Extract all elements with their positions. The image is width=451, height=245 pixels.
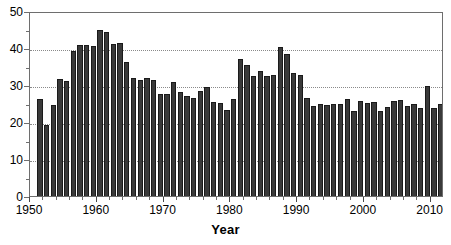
x-tick-mark bbox=[229, 197, 230, 202]
bar bbox=[351, 111, 356, 196]
bar bbox=[378, 111, 383, 196]
bar bbox=[278, 47, 283, 196]
bar bbox=[191, 98, 196, 196]
x-tick-minor bbox=[136, 197, 137, 200]
bar bbox=[178, 92, 183, 196]
x-tick-minor bbox=[69, 197, 70, 200]
bar bbox=[258, 71, 263, 196]
y-tick-label: 20 bbox=[10, 117, 23, 129]
bar-chart: 01020304050 1950196019701980199020002010… bbox=[0, 0, 451, 245]
y-axis: 01020304050 bbox=[0, 0, 29, 210]
bar bbox=[144, 78, 149, 196]
x-tick-minor bbox=[323, 197, 324, 200]
y-tick-label: 50 bbox=[10, 6, 23, 18]
bar bbox=[211, 102, 216, 196]
bar bbox=[371, 102, 376, 196]
y-tick-label: 40 bbox=[10, 43, 23, 55]
bar bbox=[304, 98, 309, 196]
bar bbox=[204, 87, 209, 196]
bar bbox=[264, 76, 269, 196]
x-tick-label: 2000 bbox=[350, 204, 377, 216]
bar bbox=[158, 94, 163, 196]
bar bbox=[324, 105, 329, 196]
x-tick-minor bbox=[390, 197, 391, 200]
bar bbox=[385, 107, 390, 196]
x-tick-mark bbox=[96, 197, 97, 202]
x-tick-minor bbox=[176, 197, 177, 200]
bar bbox=[411, 104, 416, 197]
bar bbox=[131, 78, 136, 196]
bar bbox=[391, 101, 396, 196]
bar bbox=[111, 44, 116, 196]
x-axis-title: Year bbox=[0, 222, 451, 237]
x-tick-minor bbox=[283, 197, 284, 200]
plot-area bbox=[29, 12, 443, 197]
x-tick-minor bbox=[350, 197, 351, 200]
bar bbox=[57, 79, 62, 196]
x-tick-label: 1950 bbox=[16, 204, 43, 216]
bar bbox=[418, 108, 423, 196]
y-tick-label: 0 bbox=[16, 191, 23, 203]
bar bbox=[117, 43, 122, 196]
bar bbox=[224, 110, 229, 196]
bars-series bbox=[30, 13, 442, 196]
bar bbox=[345, 99, 350, 196]
bar bbox=[331, 104, 336, 197]
y-tick-label: 30 bbox=[10, 80, 23, 92]
bar bbox=[251, 76, 256, 196]
bar bbox=[171, 82, 176, 196]
bar bbox=[184, 96, 189, 196]
bar bbox=[84, 45, 89, 196]
bar bbox=[425, 86, 430, 196]
bar bbox=[405, 106, 410, 196]
x-tick-minor bbox=[256, 197, 257, 200]
x-tick-mark bbox=[29, 197, 30, 202]
bar bbox=[77, 45, 82, 196]
bar bbox=[318, 104, 323, 197]
x-tick-minor bbox=[122, 197, 123, 200]
x-tick-minor bbox=[82, 197, 83, 200]
x-tick-minor bbox=[216, 197, 217, 200]
bar bbox=[298, 75, 303, 196]
bar bbox=[64, 81, 69, 196]
bar bbox=[198, 91, 203, 196]
x-tick-label: 1980 bbox=[216, 204, 243, 216]
bar bbox=[365, 103, 370, 196]
bar bbox=[104, 32, 109, 196]
bar bbox=[311, 106, 316, 196]
x-tick-mark bbox=[363, 197, 364, 202]
bar bbox=[244, 65, 249, 196]
bar bbox=[438, 104, 443, 196]
bar bbox=[124, 62, 129, 196]
bar bbox=[231, 99, 236, 196]
bar bbox=[271, 75, 276, 196]
x-tick-minor bbox=[376, 197, 377, 200]
x-tick-minor bbox=[416, 197, 417, 200]
bar bbox=[37, 99, 42, 196]
bar bbox=[284, 54, 289, 196]
x-tick-minor bbox=[42, 197, 43, 200]
x-tick-minor bbox=[243, 197, 244, 200]
x-tick-minor bbox=[336, 197, 337, 200]
x-tick-minor bbox=[203, 197, 204, 200]
bar bbox=[71, 51, 76, 196]
bar bbox=[151, 80, 156, 196]
bar bbox=[291, 73, 296, 196]
x-tick-minor bbox=[403, 197, 404, 200]
x-tick-label: 1990 bbox=[283, 204, 310, 216]
x-tick-mark bbox=[430, 197, 431, 202]
bar bbox=[398, 100, 403, 196]
bar bbox=[358, 101, 363, 196]
bar bbox=[91, 46, 96, 196]
x-tick-mark bbox=[163, 197, 164, 202]
x-tick-minor bbox=[149, 197, 150, 200]
x-tick-minor bbox=[109, 197, 110, 200]
bar bbox=[238, 59, 243, 196]
x-tick-minor bbox=[269, 197, 270, 200]
x-tick-minor bbox=[189, 197, 190, 200]
bar bbox=[44, 125, 49, 196]
bar bbox=[97, 30, 102, 196]
bar bbox=[138, 80, 143, 196]
bar bbox=[218, 103, 223, 196]
x-tick-minor bbox=[56, 197, 57, 200]
